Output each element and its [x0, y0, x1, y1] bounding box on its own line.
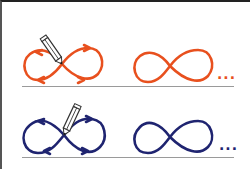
navy-row: ... [2, 87, 250, 169]
orange-row: ... [2, 2, 250, 86]
infinity-with-arrows-icon [24, 45, 102, 83]
figure-frame: ... ... [0, 0, 250, 169]
infinity-icon [134, 121, 212, 153]
infinity-icon [134, 50, 212, 82]
continuation-ellipsis: ... [219, 137, 238, 153]
row-baseline [22, 157, 234, 158]
continuation-ellipsis: ... [217, 66, 236, 82]
